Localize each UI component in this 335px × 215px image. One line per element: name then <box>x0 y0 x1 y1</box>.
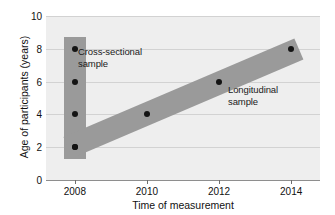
data-point <box>216 79 222 85</box>
gridline <box>46 82 320 83</box>
annotation-longitudinal-line2: sample <box>228 96 278 108</box>
data-point <box>72 79 78 85</box>
x-axis-tick-label: 2010 <box>136 186 158 197</box>
x-axis-tick <box>291 180 292 184</box>
y-axis-tick-label: 4 <box>36 109 42 120</box>
figure-container: Cross-sectional sample Longitudinal samp… <box>0 0 335 215</box>
annotation-cross-sectional: Cross-sectional sample <box>78 46 142 69</box>
gridline <box>46 16 320 17</box>
y-axis-tick-label: 2 <box>36 142 42 153</box>
x-axis-tick-label: 2008 <box>64 186 86 197</box>
x-axis-tick <box>75 180 76 184</box>
x-axis-title: Time of measurement <box>46 199 320 211</box>
y-axis-tick-label: 8 <box>36 43 42 54</box>
y-axis-title: Age of participants (years) <box>18 12 30 182</box>
data-point <box>72 46 78 52</box>
data-point <box>288 46 294 52</box>
annotation-cross-sectional-line1: Cross-sectional <box>78 46 142 58</box>
data-point <box>72 144 78 150</box>
annotation-longitudinal: Longitudinal sample <box>228 84 278 107</box>
y-axis-tick-label: 6 <box>36 76 42 87</box>
y-axis-tick-label: 0 <box>36 175 42 186</box>
annotation-longitudinal-line1: Longitudinal <box>228 84 278 96</box>
plot-area <box>46 16 320 180</box>
x-axis-line <box>46 180 320 181</box>
y-axis-tick-label: 10 <box>31 11 42 22</box>
x-axis-tick <box>219 180 220 184</box>
annotation-cross-sectional-line2: sample <box>78 58 142 70</box>
x-axis-tick-label: 2012 <box>208 186 230 197</box>
x-axis-tick-label: 2014 <box>280 186 302 197</box>
x-axis-tick <box>147 180 148 184</box>
gridline <box>46 114 320 115</box>
